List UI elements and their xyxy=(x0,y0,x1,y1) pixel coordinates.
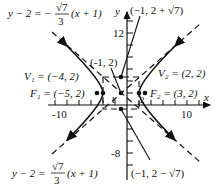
center-point xyxy=(119,91,124,96)
vertex1-label: V₁ = (−4, 2) xyxy=(24,70,79,83)
conj-top-label: (−1, 2 + √7) xyxy=(130,4,184,17)
x-axis-label: x xyxy=(203,91,209,103)
focus1-label: F₁ = (−5, 2) xyxy=(29,87,85,100)
svg-text:y − 2 =: y − 2 = xyxy=(11,167,45,179)
y-tick-label-neg8: -8 xyxy=(111,147,121,159)
svg-text:y − 2 = −: y − 2 = − xyxy=(7,7,52,19)
asymptote-equation-bottom: y − 2 = √7 3 (x + 1) xyxy=(11,160,98,186)
small-label-1: 1 xyxy=(111,95,116,105)
svg-text:3: 3 xyxy=(58,15,64,27)
vertex1-point xyxy=(101,91,106,96)
leader-top-conj xyxy=(121,16,140,77)
svg-text:3: 3 xyxy=(54,174,60,186)
y-axis-label: y xyxy=(114,5,120,17)
leader-bottom-conj xyxy=(121,109,150,160)
focus2-label: F₂ = (3, 2) xyxy=(149,87,198,100)
y-tick-label-12: 12 xyxy=(113,27,124,39)
small-label-2: 2 xyxy=(140,95,145,105)
hyperbola-diagram: -10 10 12 -8 x y (-1, 2) (−1, 2 + √7) (−… xyxy=(0,0,221,187)
conj-bottom-point xyxy=(119,107,124,112)
asymptote-equation-top: y − 2 = − √7 3 (x + 1) xyxy=(7,1,102,27)
svg-text:√7: √7 xyxy=(52,160,64,172)
x-tick-label-10: 10 xyxy=(181,108,193,120)
conj-bottom-label: (−1, 2 − √7) xyxy=(131,167,185,180)
center-label: (-1, 2) xyxy=(90,56,118,69)
focus1-point xyxy=(95,91,100,96)
x-tick-label-neg10: -10 xyxy=(52,108,67,120)
svg-text:(x + 1): (x + 1) xyxy=(67,167,98,180)
conj-top-point xyxy=(119,75,124,80)
vertex2-label: V₂ = (2, 2) xyxy=(158,67,206,80)
leader-center xyxy=(111,68,121,93)
svg-text:√7: √7 xyxy=(56,1,68,13)
svg-text:(x + 1): (x + 1) xyxy=(71,7,102,20)
